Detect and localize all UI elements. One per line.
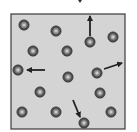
gas-particle-icon: [17, 107, 27, 117]
gas-particle-icon: [35, 87, 45, 97]
gas-particle-icon: [28, 46, 38, 56]
gas-particle-icon: [85, 37, 95, 47]
gas-particle-icon: [51, 26, 61, 36]
gas-particle-icon: [108, 32, 118, 42]
gas-particle-icon: [106, 107, 116, 117]
gas-particle-icon: [62, 46, 72, 56]
gas-particle-icon: [13, 65, 23, 75]
gas-particle-icon: [95, 88, 105, 98]
gas-particle-icon: [63, 72, 73, 82]
gas-particle-icon: [51, 107, 61, 117]
gas-particle-icon: [92, 68, 102, 78]
gas-particle-icon: [19, 20, 29, 30]
gas-particle-icon: [79, 118, 89, 128]
gas-particles-diagram: [0, 0, 137, 132]
cropped-arrow-fragment: [78, 0, 82, 3]
